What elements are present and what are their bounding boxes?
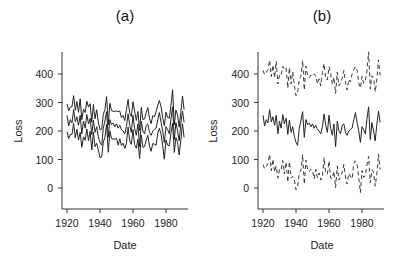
x-tick-label: 1960: [121, 217, 145, 229]
y-tick-label: 0: [243, 182, 249, 194]
x-ticks: 1920194019601980: [251, 209, 374, 229]
panel-a-lines: [67, 90, 184, 160]
y-tick-label: 100: [35, 154, 53, 166]
panel-b-title: (b): [313, 7, 331, 24]
x-axis-title: Date: [310, 239, 333, 251]
y-tick-label: 200: [35, 125, 53, 137]
y-ticks: 0100200300400: [231, 68, 258, 194]
y-axis-title: Loss: [12, 119, 24, 143]
series-line-lower-interval: [263, 154, 380, 193]
series-line-upper-interval: [263, 52, 380, 96]
panel-b-lines: [263, 52, 380, 193]
x-ticks: 1920194019601980: [55, 209, 178, 229]
x-tick-label: 1960: [317, 217, 341, 229]
y-tick-label: 0: [47, 182, 53, 194]
y-tick-label: 400: [231, 68, 249, 80]
x-tick-label: 1920: [55, 217, 79, 229]
chart-figure: (a) 0100200300400 1920194019601980 Date …: [0, 0, 398, 263]
y-tick-label: 100: [231, 154, 249, 166]
x-tick-label: 1920: [251, 217, 275, 229]
y-ticks: 0100200300400: [35, 68, 62, 194]
panel-a: (a) 0100200300400 1920194019601980 Date …: [12, 7, 188, 251]
x-tick-label: 1940: [88, 217, 112, 229]
y-tick-label: 400: [35, 68, 53, 80]
panel-a-title: (a): [116, 7, 134, 24]
y-axis-title: Loss: [207, 119, 219, 143]
y-tick-label: 200: [231, 125, 249, 137]
series-line-estimate: [263, 107, 380, 147]
y-tick-label: 300: [231, 97, 249, 109]
x-axis-title: Date: [113, 239, 136, 251]
x-tick-label: 1940: [284, 217, 308, 229]
panel-b: (b) 0100200300400 1920194019601980 Date …: [207, 7, 384, 251]
x-tick-label: 1980: [154, 217, 178, 229]
x-tick-label: 1980: [350, 217, 374, 229]
y-tick-label: 300: [35, 97, 53, 109]
